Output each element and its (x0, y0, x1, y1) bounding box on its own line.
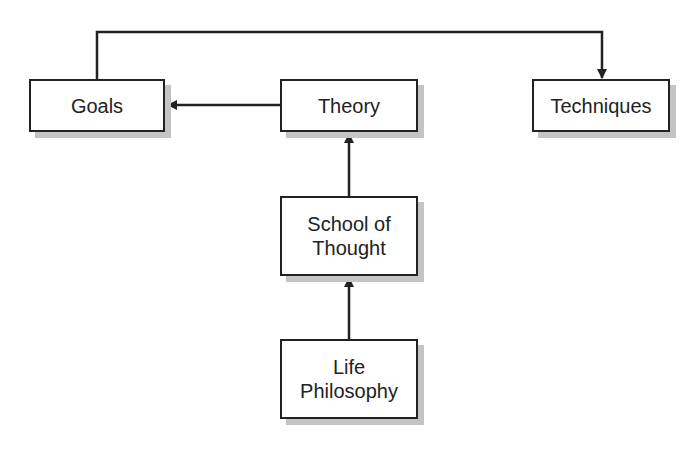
node-life-label-line2: Philosophy (300, 379, 398, 403)
node-school-of-thought: School of Thought (280, 196, 418, 276)
node-theory-label: Theory (318, 94, 380, 118)
node-school-label-line1: School of (307, 212, 390, 236)
node-techniques-label: Techniques (550, 94, 651, 118)
node-goals: Goals (29, 79, 165, 132)
node-life-label-line1: Life (333, 355, 365, 379)
node-techniques: Techniques (532, 79, 670, 132)
node-school-label-line2: Thought (312, 236, 385, 260)
node-goals-label: Goals (71, 94, 123, 118)
node-theory: Theory (280, 79, 418, 132)
node-life-philosophy: Life Philosophy (280, 339, 418, 419)
edge-goals-techniques (97, 32, 602, 79)
